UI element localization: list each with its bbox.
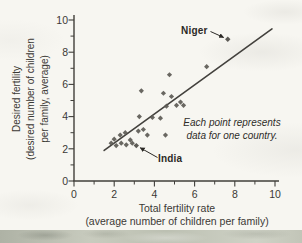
niger-label: Niger: [181, 25, 208, 36]
data-point: [163, 133, 168, 138]
page-scan-edge: [0, 230, 302, 243]
annotation-line1: Each point represents: [170, 117, 294, 130]
y-tick-label: 4: [62, 110, 68, 122]
x-tick-label: 4: [151, 188, 157, 200]
data-point: [169, 94, 174, 99]
x-tick-label: 6: [192, 188, 198, 200]
data-point-india: [134, 143, 139, 148]
x-tick-label: 0: [71, 188, 77, 200]
y-axis-title: Desired fertility (desired number of chi…: [10, 14, 52, 184]
data-point: [137, 114, 142, 119]
data-point: [136, 128, 141, 133]
x-axis-title-line2: (average number of children per family): [67, 215, 287, 228]
data-point: [167, 72, 172, 77]
data-point-niger: [225, 37, 230, 42]
data-point: [161, 91, 166, 96]
y-tick-label: 8: [62, 46, 68, 58]
fertility-scatter-chart: 02468100246810 Desired fertility (desire…: [0, 0, 302, 243]
y-tick-label: 10: [56, 14, 68, 26]
data-point: [139, 88, 144, 93]
niger-callout-arrow: [211, 32, 224, 38]
y-axis-title-line1: Desired fertility: [10, 14, 24, 184]
y-tick-label: 0: [62, 175, 68, 187]
data-point: [141, 127, 146, 132]
annotation-line2: data for one country.: [170, 130, 294, 143]
annotation-note: Each point represents data for one count…: [170, 117, 294, 142]
x-tick-label: 10: [269, 188, 281, 200]
data-point: [109, 141, 114, 146]
data-point: [150, 115, 155, 120]
scanned-textbook-figure: 02468100246810 Desired fertility (desire…: [0, 0, 302, 243]
india-label: India: [158, 153, 182, 164]
data-point: [204, 64, 209, 69]
data-point: [174, 103, 179, 108]
y-tick-label: 6: [62, 78, 68, 90]
y-axis-title-line3: per family, average): [38, 14, 52, 184]
data-point: [145, 133, 150, 138]
data-point: [158, 116, 163, 121]
y-tick-label: 2: [62, 143, 68, 155]
india-callout-arrow: [140, 148, 157, 158]
data-point: [124, 142, 129, 147]
x-tick-label: 2: [111, 188, 117, 200]
x-axis-title: Total fertility rate (average number of …: [67, 202, 287, 227]
data-point: [119, 141, 124, 146]
x-axis-title-line1: Total fertility rate: [67, 202, 287, 215]
y-axis-title-line2: (desired number of children: [24, 14, 38, 184]
x-tick-label: 8: [232, 188, 238, 200]
